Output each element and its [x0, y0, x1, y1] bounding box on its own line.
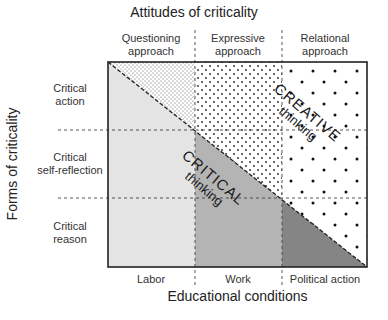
bottom-label-political-action: Political action — [282, 273, 368, 285]
bottom-axis-title: Educational conditions — [108, 288, 367, 304]
bottom-label-labor: Labor — [108, 273, 194, 285]
bottom-label-work: Work — [195, 273, 281, 285]
